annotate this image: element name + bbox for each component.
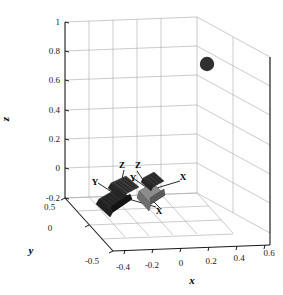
frame-label-x: X (180, 172, 187, 182)
frame-label-x: X (156, 206, 163, 216)
x-tick-label: 0.4 (233, 253, 245, 263)
z-tick-label: 0.8 (49, 46, 61, 56)
target-sphere-marker (200, 57, 214, 71)
z-axis-label: z (0, 116, 11, 122)
frame-label-y: Y (92, 177, 99, 187)
x-tick-label: -0.2 (145, 260, 159, 270)
x-axis-line (113, 245, 270, 251)
x-tick-label: -0.4 (116, 262, 131, 272)
y-tick-label: 0.5 (44, 202, 56, 212)
z-tick-label: 0.4 (49, 105, 61, 115)
frame-label-z: Z (135, 160, 141, 170)
x-axis-ticks: -0.4 -0.2 0 0.2 0.4 0.6 (116, 245, 275, 272)
z-tick-label: 0.2 (49, 134, 60, 144)
frame-label-z: Z (119, 160, 125, 170)
z-tick-label: 0 (56, 163, 61, 173)
right-wall-grid (197, 17, 270, 233)
z-tick-label: 1 (56, 17, 61, 27)
three-d-plot: 1 0.8 0.6 0.4 0.2 0 -0.2 0.5 0 -0.5 -0.4… (0, 0, 283, 295)
gripper-light-object (133, 171, 180, 211)
axis-lines (65, 22, 270, 251)
z-tick-label: 0.6 (49, 75, 61, 85)
x-axis-label: x (188, 274, 195, 286)
y-tick-label: 0 (48, 223, 53, 233)
frame-label-y: Y (130, 173, 137, 183)
x-tick-label: 0.2 (205, 256, 216, 266)
back-wall-grid (65, 17, 197, 198)
y-axis-label: y (27, 244, 34, 256)
x-tick-label: 0 (179, 258, 184, 268)
y-tick-label: -0.5 (85, 256, 100, 266)
x-tick-label: 0.6 (263, 248, 275, 258)
